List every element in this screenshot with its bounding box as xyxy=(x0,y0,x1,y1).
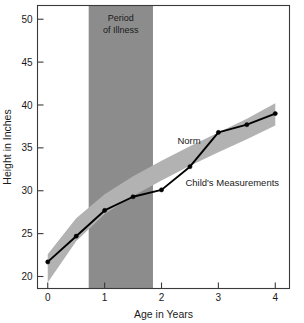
growth-chart: 01234 20253035404550 Age in Years Height… xyxy=(0,0,304,323)
period-of-illness-band xyxy=(89,6,153,289)
illness-band-label-line2: of Illness xyxy=(103,25,139,35)
x-tick-label: 1 xyxy=(102,292,108,303)
data-point-marker xyxy=(46,260,50,264)
y-axis-title: Height in Inches xyxy=(1,109,13,184)
data-point-marker xyxy=(216,130,220,134)
data-point-marker xyxy=(245,123,249,127)
y-tick-label: 45 xyxy=(21,57,33,68)
norm-annotation-label: Norm xyxy=(177,135,200,146)
child-measurements-annotation-label: Child's Measurements xyxy=(185,177,279,188)
x-axis-title: Age in Years xyxy=(134,308,193,320)
data-point-marker xyxy=(103,208,107,212)
data-point-marker xyxy=(159,188,163,192)
illness-band-label-line1: Period xyxy=(108,13,134,23)
y-tick-label: 20 xyxy=(21,271,33,282)
illness-region-rect xyxy=(89,6,153,289)
x-tick-label: 0 xyxy=(45,292,51,303)
y-tick-label: 30 xyxy=(21,185,33,196)
data-point-marker xyxy=(74,234,78,238)
x-tick-label: 3 xyxy=(216,292,222,303)
chart-canvas: 01234 20253035404550 Age in Years Height… xyxy=(0,0,304,323)
x-tick-label: 4 xyxy=(272,292,278,303)
data-point-marker xyxy=(273,111,277,115)
y-tick-label: 50 xyxy=(21,14,33,25)
x-tick-label: 2 xyxy=(159,292,165,303)
data-point-marker xyxy=(188,165,192,169)
y-tick-label: 35 xyxy=(21,142,33,153)
data-point-marker xyxy=(131,195,135,199)
y-tick-label: 40 xyxy=(21,100,33,111)
y-tick-label: 25 xyxy=(21,228,33,239)
